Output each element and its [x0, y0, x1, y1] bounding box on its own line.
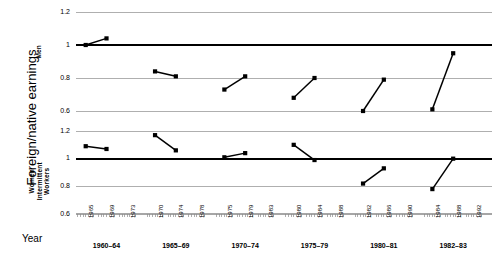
data-point-marker — [430, 107, 434, 111]
x-tick-label-text: 1986 — [386, 205, 392, 218]
x-tick-label-text: 1988 — [338, 205, 344, 218]
panel-label-line: Women — [28, 150, 36, 212]
x-tick-label-text: 1984 — [317, 205, 323, 218]
data-point-marker — [382, 166, 386, 170]
x-tick-label-text: 1973 — [130, 205, 136, 218]
cohort-group-label: 1975–79 — [289, 242, 341, 249]
data-point-marker — [84, 144, 88, 148]
x-tick-label-text: 1979 — [248, 205, 254, 218]
y-tick-label: 1.2 — [48, 127, 70, 134]
series-line — [363, 168, 384, 183]
data-point-marker — [84, 43, 88, 47]
data-point-marker — [361, 109, 365, 113]
data-point-marker — [153, 133, 157, 137]
x-tick-label-text: 1984 — [435, 205, 441, 218]
data-point-marker — [104, 147, 108, 151]
data-point-marker — [243, 74, 247, 78]
y-tick-label: 0.8 — [48, 182, 70, 189]
series-line — [224, 153, 245, 157]
panel-label-line: Men — [35, 30, 43, 74]
y-tick-label: 0.6 — [48, 107, 70, 114]
data-point-marker — [430, 187, 434, 191]
figure: Foreign/native earningsMenWomenIntermitt… — [0, 0, 495, 261]
x-tick-label-text: 1975 — [227, 205, 233, 218]
x-tick-label-text: 1980 — [296, 205, 302, 218]
data-point-marker — [104, 36, 108, 40]
x-tick-label-text: 1983 — [268, 205, 274, 218]
data-point-marker — [222, 155, 226, 159]
series-line — [155, 71, 176, 76]
x-tick-label-text: 1974 — [178, 205, 184, 218]
cohort-group-label: 1982–83 — [427, 242, 479, 249]
x-tick-label-text: 1982 — [366, 205, 372, 218]
x-axis-title: Year — [22, 233, 42, 244]
panel-label-men: Men — [35, 30, 43, 74]
x-tick-label-text: 1978 — [199, 205, 205, 218]
data-point-marker — [222, 87, 226, 91]
x-tick-label-text: 1990 — [407, 205, 413, 218]
cohort-group-label: 1980–81 — [358, 242, 410, 249]
data-point-marker — [382, 78, 386, 82]
series-line — [294, 78, 315, 98]
y-tick-label: 0.8 — [48, 74, 70, 81]
data-point-marker — [361, 181, 365, 185]
y-tick-label: 1 — [48, 41, 70, 48]
cohort-group-label: 1970–74 — [219, 242, 271, 249]
series-line — [363, 80, 384, 111]
data-point-marker — [292, 143, 296, 147]
data-point-marker — [451, 51, 455, 55]
y-tick-label: 1.2 — [48, 8, 70, 15]
y-tick-label: 0.6 — [48, 210, 70, 217]
cohort-group-label: 1965–69 — [150, 242, 202, 249]
cohort-group-label: 1960–64 — [81, 242, 133, 249]
x-tick-label-text: 1965 — [88, 205, 94, 218]
y-tick-label: 1 — [48, 154, 70, 161]
data-point-marker — [451, 157, 455, 161]
data-point-marker — [312, 76, 316, 80]
x-tick-label-text: 1992 — [476, 205, 482, 218]
panel-label-line: Intermittent — [35, 150, 43, 212]
data-point-marker — [174, 74, 178, 78]
data-point-marker — [174, 148, 178, 152]
data-point-marker — [153, 69, 157, 73]
series-line — [155, 135, 176, 150]
x-tick-label-text: 1970 — [158, 205, 164, 218]
x-tick-label-text: 1988 — [456, 205, 462, 218]
data-point-marker — [243, 151, 247, 155]
panel-label-women: WomenIntermittentWorkers — [28, 150, 51, 212]
data-point-marker — [312, 158, 316, 162]
series-line — [432, 53, 453, 109]
data-point-marker — [292, 96, 296, 100]
series-line — [86, 146, 107, 149]
x-tick-label-text: 1969 — [109, 205, 115, 218]
series-line — [432, 159, 453, 189]
